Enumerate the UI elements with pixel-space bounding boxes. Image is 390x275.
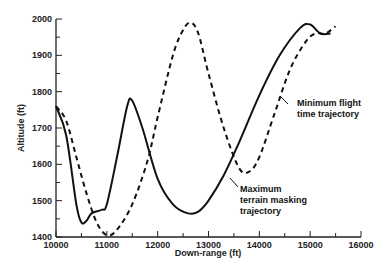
x-tick-label: 14000 <box>247 240 272 250</box>
y-tick-label: 2000 <box>32 14 52 24</box>
y-tick-label: 1900 <box>32 50 52 60</box>
x-tick-label: 11000 <box>95 240 120 250</box>
y-axis-title: Altitude (ft) <box>16 104 26 152</box>
max-terrain-leader-line <box>230 178 238 187</box>
y-tick-label: 1600 <box>32 159 52 169</box>
y-tick-label: 1400 <box>32 232 52 242</box>
x-tick-label: 16000 <box>348 240 373 250</box>
max-terrain-masking-line <box>56 24 331 224</box>
x-tick-label: 15000 <box>298 240 323 250</box>
min-flight-leader-line <box>280 96 288 104</box>
y-tick-label: 1800 <box>32 87 52 97</box>
trajectory-chart: 1000011000120001300014000150001600014001… <box>0 0 390 275</box>
y-tick-label: 1700 <box>32 123 52 133</box>
max-terrain-annotation: Maximum <box>240 184 282 194</box>
annotations: Minimum flighttime trajectoryMaximumterr… <box>230 96 361 216</box>
min-flight-annotation: time trajectory <box>297 109 359 119</box>
min-flight-annotation: Minimum flight <box>297 98 361 108</box>
x-tick-label: 12000 <box>145 240 170 250</box>
max-terrain-annotation: trajectory <box>240 206 281 216</box>
max-terrain-annotation: terrain masking <box>240 195 307 205</box>
y-tick-label: 1500 <box>32 196 52 206</box>
x-axis-title: Down-range (ft) <box>175 248 242 258</box>
